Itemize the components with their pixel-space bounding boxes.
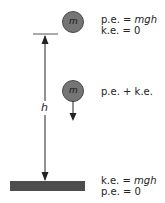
mass-middle-label: m	[69, 85, 78, 96]
top-pe-var: mgh	[135, 14, 157, 25]
top-pe-prefix: p.e. =	[101, 14, 135, 25]
height-label: h	[41, 102, 48, 113]
bottom-ke-prefix: k.e. =	[101, 175, 134, 186]
top-ke-line: k.e. = 0	[101, 25, 157, 36]
height-arrow-up-head	[42, 35, 49, 44]
mass-top-label: m	[69, 16, 78, 27]
middle-energy-line: p.e. + k.e.	[101, 86, 153, 97]
ground-bar	[10, 181, 85, 191]
bottom-state-label: k.e. = mgh p.e. = 0	[101, 175, 156, 197]
bottom-ke-var: mgh	[134, 175, 156, 186]
bottom-pe-line: p.e. = 0	[101, 186, 156, 197]
height-arrow-down-head	[42, 172, 49, 181]
top-state-label: p.e. = mgh k.e. = 0	[101, 14, 157, 36]
velocity-arrow-head	[70, 113, 77, 121]
middle-state-label: p.e. + k.e.	[101, 86, 153, 97]
